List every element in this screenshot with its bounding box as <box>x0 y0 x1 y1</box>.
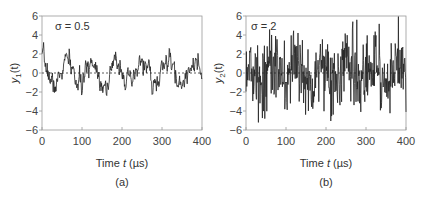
x-axis-title-b: Time t (µs) <box>300 157 352 169</box>
x-tick-label: 100 <box>73 135 91 147</box>
x-tick-label: 0 <box>243 135 249 147</box>
x-tick-label: 300 <box>153 135 171 147</box>
sigma-annotation-b: σ = 2 <box>251 20 276 32</box>
x-tick-label: 400 <box>193 135 211 147</box>
sigma-annotation-a: σ = 0.5 <box>55 20 90 32</box>
y-tick-label: −6 <box>25 124 38 136</box>
figure: 0100200300400 −6−4−20246 σ = 0.5 Time t … <box>0 0 425 197</box>
y-axis-a: −6−4−20246 <box>25 10 42 136</box>
y-tick-label: 0 <box>236 67 242 79</box>
x-tick-label: 400 <box>397 135 415 147</box>
y-tick-label: −6 <box>229 124 242 136</box>
y-tick-label: −2 <box>25 86 38 98</box>
y-tick-label: 6 <box>32 10 38 22</box>
y-axis-title-b: y2(t) <box>212 63 227 84</box>
y-tick-label: 6 <box>236 10 242 22</box>
y-axis-title-a: y1(t) <box>8 63 23 84</box>
y-tick-label: −4 <box>25 105 38 117</box>
x-tick-label: 300 <box>357 135 375 147</box>
x-tick-label: 0 <box>39 135 45 147</box>
y-tick-label: 2 <box>32 48 38 60</box>
y-tick-label: −4 <box>229 105 242 117</box>
panel-a: 0100200300400 −6−4−20246 σ = 0.5 Time t … <box>8 10 211 188</box>
x-axis-title-a: Time t (µs) <box>96 157 148 169</box>
x-tick-label: 200 <box>317 135 335 147</box>
x-tick-label: 200 <box>113 135 131 147</box>
series-line-y2 <box>246 17 406 123</box>
y-tick-label: −2 <box>229 86 242 98</box>
panel-b: 0100200300400 −6−4−20246 σ = 2 Time t (µ… <box>212 10 415 188</box>
y-tick-label: 4 <box>32 29 38 41</box>
y-tick-label: 2 <box>236 48 242 60</box>
y-tick-label: 4 <box>236 29 242 41</box>
y-tick-label: 0 <box>32 67 38 79</box>
x-tick-label: 100 <box>277 135 295 147</box>
panel-label-a: (a) <box>115 176 128 188</box>
panel-label-b: (b) <box>319 176 332 188</box>
y-axis-b: −6−4−20246 <box>229 10 246 136</box>
series-line-y1 <box>42 42 202 95</box>
